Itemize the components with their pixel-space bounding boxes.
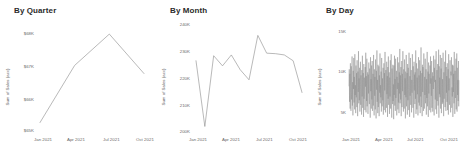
- plot-area-by-month[interactable]: [192, 20, 306, 132]
- y-tick-label: 240K: [180, 22, 190, 27]
- chart-panel-by-month[interactable]: By Month Sum of Sales (acc) 240K 230K 22…: [156, 0, 312, 150]
- y-tick-label: $68K: [24, 31, 34, 36]
- y-tick-label: 210K: [180, 103, 190, 108]
- small-multiples-dashboard: By Quarter Sum of Sales (acc) $68K $67K …: [0, 0, 468, 150]
- chart-panel-by-day[interactable]: By Day Sum of Sales (acc) 15K 10K 5K Jan…: [312, 0, 468, 150]
- x-tick-label: Apr 2021: [222, 137, 240, 142]
- x-tick-label: Jan 2021: [342, 137, 360, 142]
- y-tick-label: $67K: [24, 64, 34, 69]
- y-axis-ticks-by-quarter: $68K $67K $66K $65K: [0, 0, 34, 150]
- y-tick-label: 230K: [180, 49, 190, 54]
- x-tick-label: Jul 2021: [103, 137, 120, 142]
- plot-area-by-day[interactable]: [346, 24, 462, 132]
- x-tick-label: Oct 2021: [440, 137, 458, 142]
- plot-area-by-quarter[interactable]: [36, 26, 150, 132]
- x-tick-label: Jul 2021: [256, 137, 273, 142]
- chart-panel-by-quarter[interactable]: By Quarter Sum of Sales (acc) $68K $67K …: [0, 0, 156, 150]
- line-series-by-day: [346, 24, 462, 132]
- y-tick-label: 220K: [180, 76, 190, 81]
- y-tick-label: $65K: [24, 128, 34, 133]
- y-tick-label: $66K: [24, 97, 34, 102]
- x-tick-label: Apr 2021: [67, 137, 85, 142]
- y-tick-label: 200K: [180, 129, 190, 134]
- y-axis-ticks-by-month: 240K 230K 220K 210K 200K: [156, 0, 190, 150]
- x-tick-label: Oct 2021: [136, 137, 154, 142]
- x-tick-label: Jul 2021: [407, 137, 424, 142]
- x-tick-label: Jan 2021: [189, 137, 207, 142]
- x-tick-label: Jan 2021: [34, 137, 52, 142]
- x-tick-label: Apr 2021: [375, 137, 393, 142]
- x-tick-label: Oct 2021: [289, 137, 307, 142]
- y-tick-label: 15K: [338, 29, 346, 34]
- y-tick-label: 10K: [338, 69, 346, 74]
- y-axis-ticks-by-day: 15K 10K 5K: [312, 0, 346, 150]
- line-series-by-month: [192, 20, 306, 132]
- line-series-by-quarter: [36, 26, 150, 132]
